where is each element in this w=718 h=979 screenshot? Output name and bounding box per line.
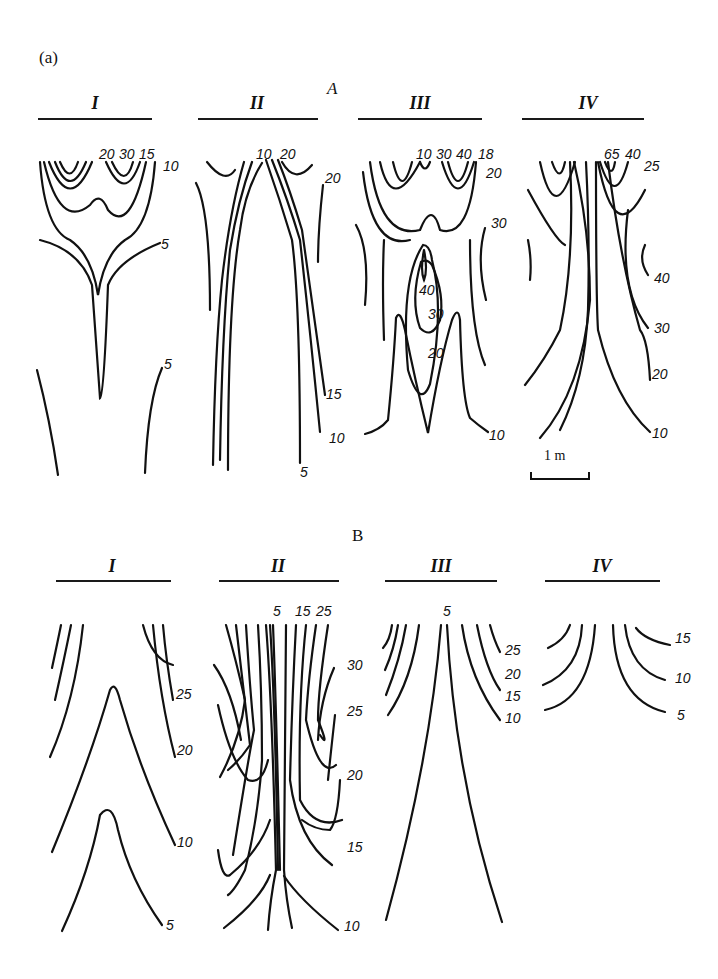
contour-label: 25 xyxy=(505,642,521,658)
contour-label: 30 xyxy=(428,306,444,322)
contour-label: 10 xyxy=(163,158,179,174)
contour-label: 20 xyxy=(652,366,668,382)
contour-label: 5 xyxy=(300,464,308,480)
contour-label: 10 xyxy=(675,670,691,686)
contour-label: 15 xyxy=(347,839,363,855)
contour-label: 15 xyxy=(505,688,521,704)
contour-label: 40 xyxy=(654,270,670,286)
scale-label: 1 m xyxy=(544,448,565,464)
contour-label: 5 xyxy=(443,603,451,619)
contour-label: 20 xyxy=(428,345,444,361)
contour-label: 15 xyxy=(675,630,691,646)
contour-label: 18 xyxy=(478,146,494,162)
contour-label: 40 xyxy=(625,146,641,162)
section-b-column-2-numeral: II xyxy=(271,556,285,577)
contour-label: 15 xyxy=(139,146,155,162)
contour-label: 25 xyxy=(347,703,363,719)
contour-label: 10 xyxy=(416,146,432,162)
section-b-column-4-numeral: IV xyxy=(592,556,611,577)
contour-label: 20 xyxy=(99,146,115,162)
section-b-column-2-contours xyxy=(214,625,342,930)
section-b-column-1-surface xyxy=(56,580,171,582)
contour-label: 20 xyxy=(325,170,341,186)
contour-label: 10 xyxy=(177,834,193,850)
contour-label: 5 xyxy=(166,917,174,933)
section-b-label: B xyxy=(352,526,363,546)
section-b-column-3-numeral: III xyxy=(430,556,451,577)
contour-label: 10 xyxy=(489,427,505,443)
section-a-column-2-contours xyxy=(196,160,325,470)
contour-label: 10 xyxy=(344,918,360,934)
scale-bar xyxy=(530,472,590,480)
contour-label: 10 xyxy=(505,710,521,726)
section-b-column-1-numeral: I xyxy=(108,556,115,577)
section-a-column-1-contours xyxy=(37,162,162,475)
section-b-column-2-surface xyxy=(219,580,339,582)
contour-label: 10 xyxy=(256,146,272,162)
contour-label: 40 xyxy=(456,146,472,162)
contour-label: 30 xyxy=(436,146,452,162)
contour-label: 5 xyxy=(273,603,281,619)
contour-label: 20 xyxy=(347,767,363,783)
contour-label: 30 xyxy=(347,657,363,673)
contour-label: 20 xyxy=(280,146,296,162)
section-a-column-4-contours xyxy=(525,162,650,438)
contour-label: 5 xyxy=(677,707,685,723)
contour-label: 25 xyxy=(176,686,192,702)
section-a-column-3-contours xyxy=(356,162,488,434)
contour-label: 20 xyxy=(177,742,193,758)
contour-label: 5 xyxy=(161,236,169,252)
section-b-column-3-contours xyxy=(383,625,502,922)
contour-label: 10 xyxy=(652,425,668,441)
section-b-column-4-surface xyxy=(545,580,660,582)
section-b-column-3-surface xyxy=(385,580,497,582)
contour-label: 30 xyxy=(119,146,135,162)
section-b-column-1-contours xyxy=(50,625,175,931)
contour-label: 20 xyxy=(505,666,521,682)
contour-label: 40 xyxy=(419,282,435,298)
contour-label: 65 xyxy=(604,146,620,162)
contour-figure: (a) A I II III IV xyxy=(0,0,718,979)
contour-label: 15 xyxy=(326,386,342,402)
contour-label: 5 xyxy=(164,356,172,372)
contour-label: 30 xyxy=(654,320,670,336)
contour-label: 20 xyxy=(486,165,502,181)
contour-label: 15 xyxy=(295,603,311,619)
contour-label: 25 xyxy=(316,603,332,619)
contour-label: 25 xyxy=(644,158,660,174)
contour-label: 30 xyxy=(491,215,507,231)
contour-label: 10 xyxy=(329,430,345,446)
section-b-column-4-contours xyxy=(543,625,670,712)
